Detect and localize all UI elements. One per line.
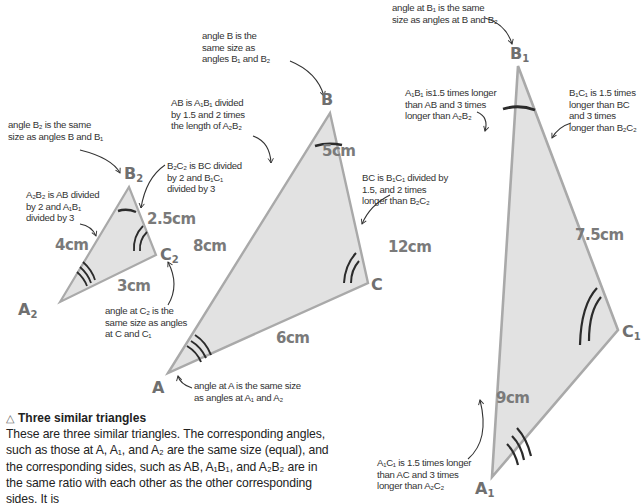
side-a1b1-length: 12cm: [388, 238, 431, 256]
note-angle-b: angle B is the same size as angles B₁ an…: [202, 30, 270, 65]
arrow-angle-b: [290, 61, 324, 96]
vertex-label-a2: A2: [18, 300, 37, 320]
side-a1c1-length: 9cm: [496, 389, 529, 407]
side-b2c2-length: 2.5cm: [147, 210, 196, 228]
arrow-b2c2: [141, 165, 165, 208]
vertex-subscript: 2: [136, 173, 143, 184]
vertex-label-b: B: [321, 90, 333, 109]
vertex-letter: C: [622, 322, 634, 341]
note-a1c1: A₁C₁ is 1.5 times longer than AC and 3 t…: [377, 457, 471, 492]
arrow-angle-c2: [168, 262, 174, 305]
vertex-letter: C: [371, 275, 383, 294]
side-a2b2-length: 4cm: [55, 236, 88, 254]
caption-title: Three similar triangles: [18, 411, 146, 425]
triangle-outline-icon: △: [6, 412, 14, 424]
note-angle-b1: angle at B₁ is the same size as angles a…: [392, 2, 498, 25]
note-b1c1: B₁C₁ is 1.5 times longer than BC and 3 t…: [569, 87, 636, 133]
side-b1c1-length: 7.5cm: [575, 226, 624, 244]
vertex-letter: A: [475, 479, 487, 498]
vertex-letter: A: [18, 300, 30, 319]
vertex-label-b1: B1: [510, 44, 529, 64]
vertex-subscript: 1: [522, 53, 529, 64]
vertex-subscript: 1: [634, 331, 641, 342]
arrow-ab: [253, 136, 271, 163]
vertex-label-c2: C2: [160, 245, 179, 265]
note-angle-c2: angle at C₂ is the same size as angles a…: [105, 305, 187, 340]
note-ab: AB is A₁B₁ divided by 1.5 and 2 times th…: [171, 97, 245, 132]
vertex-letter: B: [321, 90, 333, 109]
vertex-letter: B: [124, 164, 136, 183]
vertex-label-a: A: [152, 378, 164, 397]
caption-body: These are three similar triangles. The c…: [6, 426, 336, 503]
vertex-subscript: 2: [30, 309, 37, 320]
vertex-label-c1: C1: [622, 322, 641, 342]
note-b2c2: B₂C₂ is BC divided by 2 and B₁C₁ divided…: [167, 160, 242, 195]
vertex-label-c: C: [371, 275, 383, 294]
vertex-subscript: 1: [487, 488, 494, 499]
vertex-letter: B: [510, 44, 522, 63]
vertex-letter: A: [152, 378, 164, 397]
side-ab-length: 8cm: [193, 237, 226, 255]
arrow-angle-b2: [80, 150, 120, 173]
vertex-letter: C: [160, 245, 172, 264]
note-a2b2: A₂B₂ is AB divided by 2 and A₁B₁ divided…: [26, 189, 99, 224]
caption: △Three similar triangles These are three…: [6, 410, 336, 503]
arrow-a2b2: [80, 224, 96, 236]
vertex-label-b2: B2: [124, 164, 143, 184]
note-angle-a: angle at A is the same size as angles at…: [194, 380, 301, 403]
arrow-angle-a: [178, 376, 192, 388]
side-bc-length: 5cm: [322, 142, 355, 160]
side-ac-length: 6cm: [276, 329, 309, 347]
note-bc: BC is B₁C₁ divided by 1.5, and 2 times l…: [362, 172, 448, 207]
vertex-subscript: 2: [172, 254, 179, 265]
note-angle-b2: angle B₂ is the same size as angles B an…: [8, 119, 103, 142]
arrow-a1c1: [468, 400, 483, 459]
side-a2c2-length: 3cm: [117, 277, 150, 295]
caption-title-row: △Three similar triangles: [6, 410, 336, 426]
vertex-label-a1: A1: [475, 479, 494, 499]
note-a1b1: A₁B₁ is1.5 times longer than AB and 3 ti…: [405, 87, 496, 122]
